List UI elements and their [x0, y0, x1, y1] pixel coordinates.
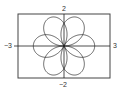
x-min-tick-label: −3	[4, 42, 12, 49]
x-max-tick-label: 3	[113, 42, 117, 49]
y-min-tick-label: −2	[59, 81, 67, 88]
polar-plot	[0, 0, 125, 92]
y-max-tick-label: 2	[62, 5, 66, 12]
